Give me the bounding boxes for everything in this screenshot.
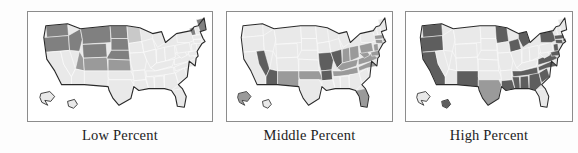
choropleth-figure: Low Percent Middle Percent High Percent <box>0 0 578 153</box>
us-map-middle-percent <box>227 12 392 121</box>
state-nd <box>301 26 317 39</box>
state-ia <box>129 41 144 53</box>
state-sd <box>481 39 497 51</box>
state-al <box>520 76 529 89</box>
state-ne <box>298 50 318 60</box>
state-nj <box>191 43 197 51</box>
state-ok <box>299 71 323 80</box>
state-or <box>241 36 264 53</box>
state-mo <box>130 52 147 71</box>
state-nd <box>110 26 128 39</box>
map-panel-high-percent <box>405 11 573 122</box>
state-wy <box>455 43 477 58</box>
state-nd <box>480 26 496 39</box>
state-or <box>420 36 443 53</box>
state-or <box>44 36 70 53</box>
state-sd <box>111 39 129 51</box>
state-ok <box>108 71 135 80</box>
state-tx <box>478 80 501 106</box>
state-nm <box>457 71 478 87</box>
state-mn <box>495 26 508 44</box>
state-co <box>83 57 108 71</box>
state-ks <box>299 59 319 71</box>
map-panel-low-percent <box>27 11 213 122</box>
state-mo <box>498 52 513 71</box>
state-ne <box>107 50 130 60</box>
state-tx <box>108 80 134 106</box>
state-nm <box>278 71 299 87</box>
state-sd <box>302 39 318 51</box>
state-tx <box>299 80 322 106</box>
map-panel-middle-percent <box>226 11 393 122</box>
state-ar <box>133 70 146 81</box>
state-ia <box>497 41 510 53</box>
state-wy <box>82 43 107 58</box>
state-ct <box>375 39 383 43</box>
caption-low-percent: Low Percent <box>27 127 213 144</box>
state-nj <box>373 43 378 51</box>
caption-middle-percent: Middle Percent <box>226 127 393 144</box>
state-ct <box>555 39 563 43</box>
state-co <box>456 57 478 71</box>
state-ct <box>193 39 202 43</box>
us-map-low-percent <box>28 12 212 121</box>
state-in <box>342 47 350 63</box>
state-ks <box>108 59 131 71</box>
state-ok <box>478 71 502 80</box>
state-co <box>277 57 299 71</box>
state-ks <box>478 59 499 71</box>
caption-high-percent: High Percent <box>405 127 573 144</box>
state-nj <box>553 43 558 51</box>
state-ar <box>501 70 513 81</box>
state-al <box>341 76 350 89</box>
state-ar <box>321 70 333 81</box>
state-in <box>522 47 530 63</box>
state-wy <box>276 43 298 58</box>
us-map-high-percent <box>406 12 572 121</box>
state-mn <box>127 26 142 44</box>
state-nm <box>84 71 108 87</box>
state-ia <box>317 41 330 53</box>
state-in <box>157 47 166 63</box>
state-mo <box>318 52 333 71</box>
state-al <box>155 76 165 89</box>
state-mn <box>316 26 329 44</box>
state-ne <box>477 50 498 60</box>
